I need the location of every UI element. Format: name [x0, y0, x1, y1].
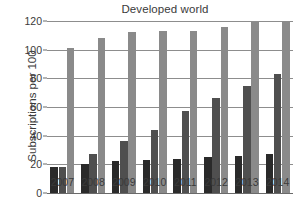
chart-figure: Developed world Subscriptions per 100 02… — [0, 0, 301, 224]
x-tick-label: 2013 — [235, 176, 258, 188]
x-tick-label: 2010 — [143, 176, 166, 188]
bar — [128, 32, 135, 193]
y-tick-label: 120 — [24, 15, 42, 27]
y-tick-label: 60 — [30, 101, 42, 113]
bar-group — [266, 21, 290, 193]
bar-group — [204, 21, 228, 193]
x-tick-label: 2008 — [81, 176, 104, 188]
y-tick-label: 100 — [24, 44, 42, 56]
x-tick-label: 2011 — [174, 176, 197, 188]
plot-area: 020406080100120 — [47, 21, 293, 193]
x-tick-label: 2009 — [112, 176, 135, 188]
bar-groups — [47, 21, 293, 193]
bar — [190, 31, 197, 193]
y-tick-label: 40 — [30, 130, 42, 142]
bar — [67, 48, 74, 193]
x-tick-label: 2012 — [204, 176, 227, 188]
x-tick-label: 2007 — [51, 176, 74, 188]
bar-group — [235, 21, 259, 193]
bar-group — [50, 21, 74, 193]
bar-group — [81, 21, 105, 193]
bar — [282, 21, 289, 193]
gridline — [47, 193, 293, 194]
bar — [221, 27, 228, 193]
bar-group — [143, 21, 167, 193]
x-tick-label: 2014 — [266, 176, 289, 188]
y-tick-label: 80 — [30, 72, 42, 84]
bar-group — [112, 21, 136, 193]
y-tick-label: 0 — [36, 187, 42, 199]
bar — [159, 31, 166, 193]
bar-group — [173, 21, 197, 193]
y-tick-label: 20 — [30, 158, 42, 170]
chart-title: Developed world — [40, 3, 290, 15]
bar — [98, 38, 105, 193]
bar — [251, 22, 258, 193]
